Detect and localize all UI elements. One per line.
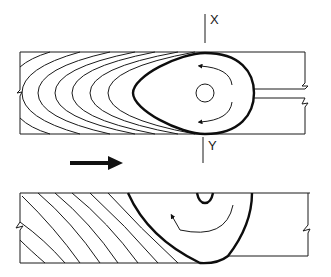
break-line-right-top xyxy=(302,52,308,89)
top-board xyxy=(17,52,308,134)
growth-rings xyxy=(20,52,195,134)
knot-section-outline xyxy=(128,193,252,263)
rotation-arrow-bottom xyxy=(200,102,232,122)
knot-diagram: X Y xyxy=(0,0,331,277)
diagonal-growth-rings xyxy=(20,193,178,263)
break-line-right-bottom xyxy=(302,98,308,134)
break-line-left xyxy=(17,52,22,134)
rotation-arrow-section xyxy=(172,205,233,232)
pith-circle xyxy=(196,84,214,102)
label-x: X xyxy=(210,12,219,27)
section-board xyxy=(16,193,310,263)
section-marker-y: Y xyxy=(203,137,217,163)
rotation-arrow-top xyxy=(200,66,232,85)
section-marker-x: X xyxy=(205,12,219,43)
pith-notch xyxy=(197,193,213,203)
knot-outline xyxy=(133,53,254,134)
break-line-left-bottom xyxy=(16,193,23,263)
break-line-right-lower xyxy=(303,193,310,256)
direction-arrow xyxy=(70,156,123,170)
label-y: Y xyxy=(208,138,217,153)
